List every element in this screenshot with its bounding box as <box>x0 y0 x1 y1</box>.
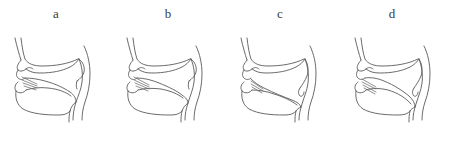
panel-a-diagram <box>0 26 112 126</box>
nostril-line <box>138 68 145 70</box>
panel-a-label: a <box>0 6 112 22</box>
tongue-upper-surface <box>137 78 188 103</box>
uvula <box>299 88 305 96</box>
nose-tip <box>17 60 26 71</box>
panel-b: b <box>112 0 224 141</box>
neck-front-line <box>181 111 182 122</box>
nostril-line <box>26 68 33 70</box>
panel-c: c <box>224 0 336 141</box>
nostril-line <box>252 68 259 70</box>
panel-b-label: b <box>112 6 224 22</box>
jaw-contour <box>242 91 296 115</box>
pharynx-inner-line <box>299 59 308 120</box>
forehead-line <box>241 38 247 60</box>
pharyngeal-wall <box>308 46 316 120</box>
uvula <box>413 88 419 96</box>
nose-tip <box>357 60 366 71</box>
jaw-contour <box>16 91 70 115</box>
nose-bridge-line <box>21 38 78 66</box>
nose-bridge-line <box>247 38 304 66</box>
jaw-contour <box>128 91 182 115</box>
uvula <box>188 81 189 89</box>
nose-bridge-line <box>361 38 418 66</box>
tongue-under-surface <box>366 89 411 105</box>
panel-d-label: d <box>336 6 448 22</box>
lower-lip <box>355 82 366 93</box>
tongue-under-surface <box>252 90 297 105</box>
pharyngeal-wall <box>422 46 430 120</box>
vocal-tract-figure: a <box>0 0 450 141</box>
forehead-line <box>15 38 21 60</box>
panel-d-diagram <box>336 26 448 126</box>
panel-c-diagram <box>224 26 336 126</box>
nostril-line <box>366 68 373 70</box>
pharyngeal-wall <box>82 46 90 120</box>
pharynx-inner-line <box>413 59 422 120</box>
pharyngeal-wall <box>194 46 202 120</box>
nose-bridge-line <box>133 38 190 66</box>
uvula <box>76 81 77 89</box>
neck-front-line <box>409 111 410 122</box>
pharynx-inner-line <box>185 59 194 120</box>
lower-lip <box>241 82 252 93</box>
pharynx-inner-line <box>73 59 82 120</box>
forehead-line <box>127 38 133 60</box>
neck-front-line <box>295 111 296 122</box>
panel-d: d <box>336 0 448 141</box>
neck-front-line <box>69 111 70 122</box>
forehead-line <box>355 38 361 60</box>
nose-tip <box>243 60 252 71</box>
panel-a: a <box>0 0 112 141</box>
panel-b-diagram <box>112 26 224 126</box>
panel-c-label: c <box>224 6 336 22</box>
nose-tip <box>129 60 138 71</box>
jaw-contour <box>356 91 410 115</box>
